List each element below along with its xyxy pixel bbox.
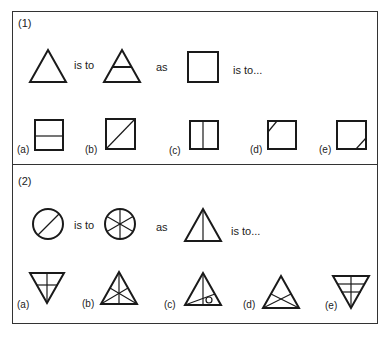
- question-2-number: (2): [18, 175, 31, 187]
- q2-connector-as: as: [156, 221, 168, 233]
- q2-triangle-vertical-icon: [185, 209, 221, 241]
- q1-option-d-label: (d): [250, 144, 262, 155]
- q1-square-icon: [188, 52, 218, 82]
- q2-circle-six-spokes-icon: [105, 209, 135, 239]
- q2-connector-is-to: is to: [74, 219, 94, 231]
- q1-option-a-label: (a): [17, 144, 29, 155]
- q1-connector-is-to: is to: [74, 59, 94, 71]
- q1-connector-as: as: [156, 61, 168, 73]
- q1-triangle-icon: [30, 50, 66, 82]
- q1-option-d-square-corner-topleft-icon[interactable]: [268, 121, 296, 149]
- q2-option-b-triangle-medians-icon[interactable]: [101, 272, 137, 304]
- q1-option-c-label: (c): [169, 145, 181, 156]
- q1-option-e-label: (e): [319, 144, 331, 155]
- question-1-number: (1): [18, 17, 31, 29]
- q2-option-d-triangle-crossing-lines-icon[interactable]: [263, 276, 299, 308]
- q1-triangle-with-line-icon: [104, 50, 140, 82]
- q2-connector-is-to-dots: is to...: [231, 225, 260, 237]
- q2-option-c-label: (c): [164, 299, 176, 310]
- q2-option-c-triangle-line-circle-icon[interactable]: [185, 273, 221, 305]
- q2-option-d-label: (d): [243, 299, 255, 310]
- q2-option-b-label: (b): [82, 298, 94, 309]
- q1-option-b-square-diagonal-icon[interactable]: [106, 119, 135, 149]
- q2-circle-diagonal-icon: [33, 209, 63, 239]
- q1-connector-is-to-dots: is to...: [233, 64, 262, 76]
- q1-option-e-square-corner-bottomright-icon[interactable]: [337, 121, 366, 149]
- q1-option-c-square-vertical-icon[interactable]: [190, 121, 218, 149]
- q2-option-e-inverted-triangle-grid-icon[interactable]: [333, 276, 369, 308]
- q1-option-a-square-horizontal-icon[interactable]: [35, 120, 63, 150]
- q2-option-a-label: (a): [17, 299, 29, 310]
- q2-option-a-inverted-triangle-cross-icon[interactable]: [30, 273, 64, 303]
- q1-option-b-label: (b): [85, 144, 97, 155]
